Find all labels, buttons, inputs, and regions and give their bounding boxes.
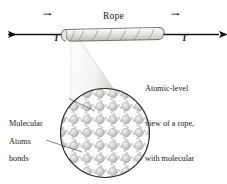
- vector-arrow-overline-right: [171, 12, 180, 16]
- molecular-bonds-line-2: bonds: [9, 153, 71, 165]
- caption-line-2: view of a rope,: [145, 118, 227, 130]
- tension-left-symbol: T: [54, 33, 60, 43]
- caption-line-3: with molecular: [145, 153, 227, 165]
- tension-right-label: T: [172, 15, 187, 53]
- atomic-view-caption: Atomic-level view of a rope, with molecu…: [145, 60, 227, 184]
- rope-label: Rope: [0, 11, 227, 21]
- vector-arrow-overline-left: [43, 12, 52, 16]
- tension-left-label: T: [44, 15, 59, 53]
- caption-line-1: Atomic-level: [145, 83, 227, 95]
- atoms-label: Atoms: [9, 136, 31, 148]
- rope-graphic: [62, 28, 165, 42]
- tension-right-symbol: T: [182, 33, 188, 43]
- molecular-bonds-line-1: Molecular: [9, 118, 71, 130]
- physics-figure-rope-tension: Rope T T Atomic-level view of a rope, wi…: [0, 0, 227, 184]
